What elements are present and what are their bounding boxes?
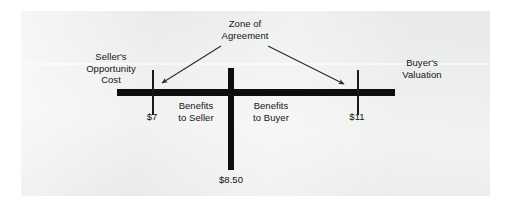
arrow-left bbox=[162, 46, 221, 83]
arrow-right bbox=[268, 46, 344, 84]
buyers-valuation-label: Buyer's Valuation bbox=[385, 57, 459, 80]
benefits-to-seller-label: Benefits to Seller bbox=[166, 100, 226, 123]
buyer-valuation-value: $11 bbox=[340, 111, 374, 123]
zone-of-agreement-label: Zone of Agreement bbox=[196, 18, 294, 41]
negotiated-price-value: $8.50 bbox=[209, 174, 253, 186]
benefits-to-buyer-label: Benefits to Buyer bbox=[241, 100, 301, 123]
sellers-opportunity-cost-label: Seller's Opportunity Cost bbox=[76, 51, 146, 86]
seller-cost-value: $7 bbox=[135, 111, 169, 123]
diagram-canvas: Zone of Agreement Seller's Opportunity C… bbox=[0, 0, 513, 206]
